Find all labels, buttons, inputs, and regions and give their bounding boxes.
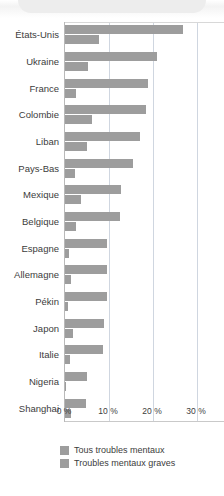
legend-item-label: Tous troubles mentaux [74,446,165,455]
bar-row: États-Unis [65,22,197,49]
category-label: Italie [39,350,59,360]
bar-severe-disorders [65,302,68,311]
bar-severe-disorders [65,249,69,258]
bar-all-disorders [65,212,120,221]
gridline [197,22,198,422]
bar-all-disorders [65,25,183,34]
bar-row: Mexique [65,182,197,209]
bar-severe-disorders [65,222,76,231]
bar-rows: États-UnisUkraineFranceColombieLibanPays… [65,22,197,422]
legend-item[interactable]: Tous troubles mentaux [60,446,224,455]
category-label: Colombie [19,110,59,120]
category-label: États-Unis [15,30,59,40]
bar-severe-disorders [65,355,70,364]
bar-severe-disorders [65,169,75,178]
bar-severe-disorders [65,62,88,71]
bar-row: Pays-Bas [65,155,197,182]
x-tick-label: 30 % [186,406,205,416]
category-label: Allemagne [14,270,59,280]
bar-row: Pékin [65,289,197,316]
category-label: Belgique [22,217,59,227]
bar-row: Nigeria [65,369,197,396]
bar-row: Allemagne [65,262,197,289]
bar-severe-disorders [65,142,87,151]
bar-severe-disorders [65,89,76,98]
category-label: Espagne [21,244,59,254]
category-label: Pays-Bas [18,164,59,174]
category-label: Mexique [23,190,59,200]
x-axis-ticks: 0 %10 %20 %30 % [0,406,224,420]
bar-severe-disorders [65,195,81,204]
bar-all-disorders [65,372,87,381]
bar-all-disorders [65,185,121,194]
bar-all-disorders [65,159,133,168]
bar-row: Belgique [65,209,197,236]
category-label: France [29,84,59,94]
bar-severe-disorders [65,329,73,338]
category-label: Pékin [35,297,59,307]
bar-all-disorders [65,345,103,354]
category-label: Nigeria [29,377,59,387]
x-tick-label: 0 % [57,406,72,416]
bar-row: Liban [65,129,197,156]
category-label: Ukraine [26,57,59,67]
bar-all-disorders [65,105,146,114]
bar-severe-disorders [65,382,66,391]
category-label: Japon [33,324,59,334]
bar-all-disorders [65,52,157,61]
category-label: Liban [36,137,59,147]
bar-severe-disorders [65,35,99,44]
bar-severe-disorders [65,115,92,124]
bar-row: Espagne [65,235,197,262]
x-tick-label: 20 % [142,406,161,416]
bar-all-disorders [65,239,107,248]
bar-row: Ukraine [65,49,197,76]
chart-legend: Tous troubles mentaux Troubles mentaux g… [60,446,224,472]
bar-all-disorders [65,292,107,301]
bar-severe-disorders [65,275,71,284]
bar-all-disorders [65,79,148,88]
bar-row: Italie [65,342,197,369]
legend-item[interactable]: Troubles mentaux graves [60,459,224,468]
x-tick-label: 10 % [98,406,117,416]
bar-row: France [65,75,197,102]
bar-all-disorders [65,319,104,328]
legend-swatch-icon [60,446,69,455]
bar-row: Japon [65,315,197,342]
bar-chart: États-UnisUkraineFranceColombieLibanPays… [0,0,224,496]
legend-swatch-icon [60,459,69,468]
bar-all-disorders [65,265,107,274]
bar-row: Colombie [65,102,197,129]
legend-item-label: Troubles mentaux graves [74,459,175,468]
bar-all-disorders [65,132,140,141]
plot-area: États-UnisUkraineFranceColombieLibanPays… [64,22,197,422]
